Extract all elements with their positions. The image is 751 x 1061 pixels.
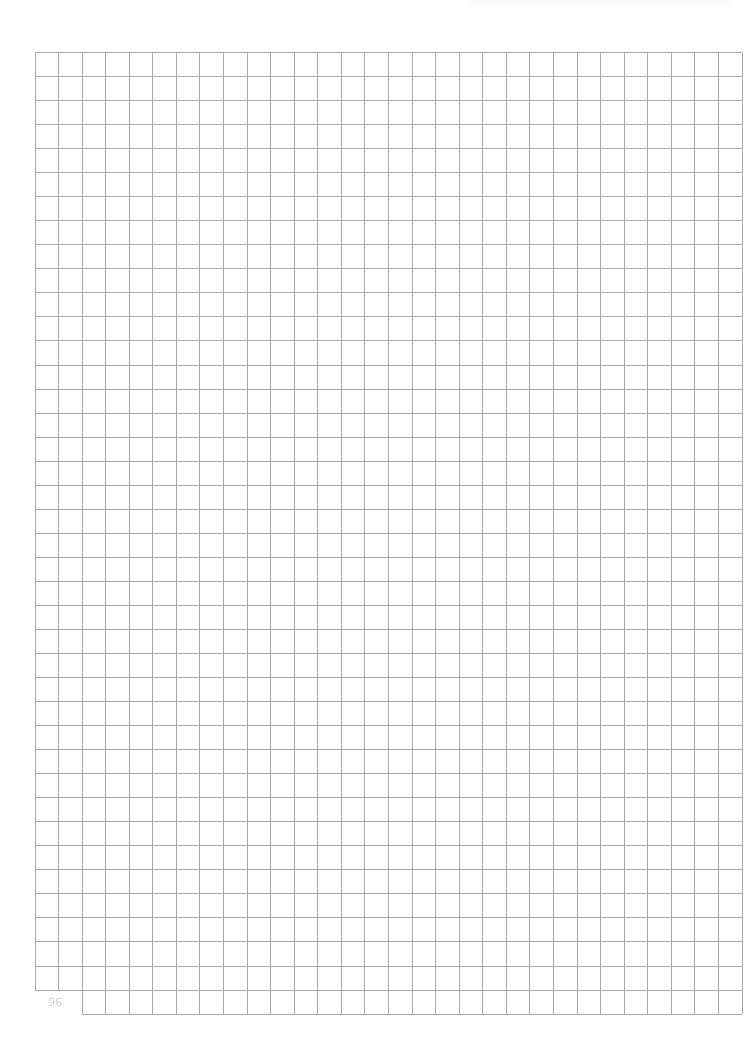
page-number: 96 — [48, 996, 62, 1009]
square-grid — [0, 0, 751, 1061]
graph-paper-page: 96 — [0, 0, 751, 1061]
